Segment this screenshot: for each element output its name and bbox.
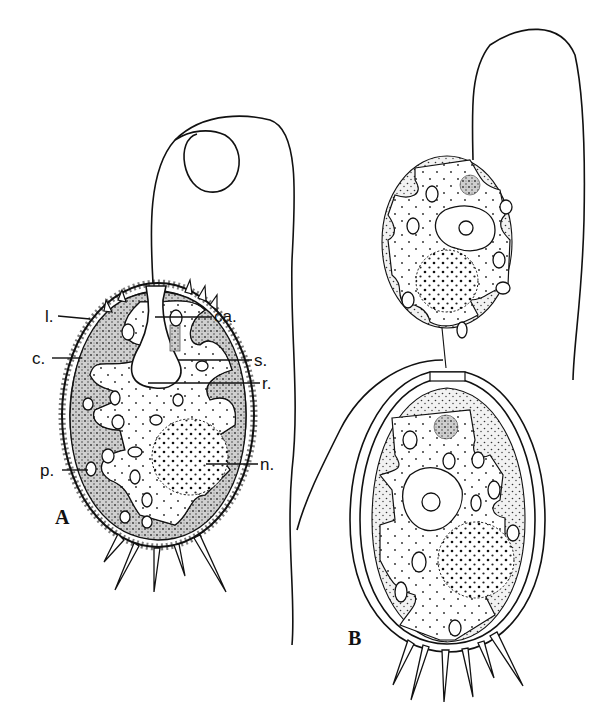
label-r: r. (262, 374, 271, 393)
flagellum-loop-a (175, 131, 239, 192)
panel-label-b: B (348, 627, 361, 649)
stigma-a (170, 325, 180, 351)
lower-collar-b (430, 372, 465, 381)
label-p: p. (40, 461, 54, 480)
nucleus-lower-b (438, 522, 514, 598)
spines-bottom-b (393, 632, 523, 702)
connection-b (442, 328, 446, 368)
eyespot-lower-b (434, 415, 458, 439)
label-c: c. (32, 349, 45, 368)
label-ca: ca. (214, 307, 237, 326)
label-s: s. (254, 351, 267, 370)
vacuole-center-upper-b (459, 221, 473, 235)
label-l: l. (45, 307, 54, 326)
figure-canvas: l. ca. c. s. r. p. n. A (0, 0, 613, 719)
nucleus-a (152, 419, 228, 495)
panel-label-a: A (55, 506, 70, 528)
label-n: n. (260, 455, 274, 474)
eyespot-upper-b (460, 175, 480, 195)
panel-b: B (297, 29, 584, 702)
panel-a: l. ca. c. s. r. p. n. A (32, 116, 295, 645)
nucleus-upper-b (416, 250, 478, 312)
vacuole-center-lower-b (422, 493, 440, 511)
